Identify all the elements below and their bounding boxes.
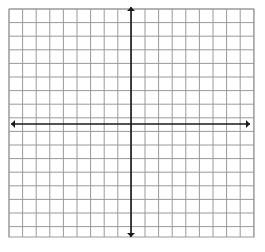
graph-canvas — [0, 0, 265, 252]
coordinate-grid-graph — [0, 0, 265, 252]
plot-background — [0, 0, 265, 252]
